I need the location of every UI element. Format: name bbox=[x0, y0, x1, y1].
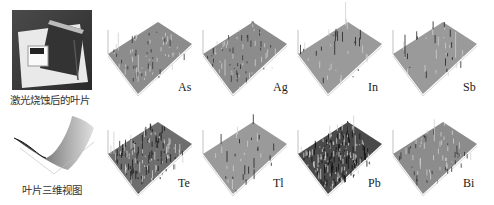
element-label: In bbox=[368, 80, 378, 95]
element-label: Te bbox=[178, 176, 190, 191]
leaf-3d-surface bbox=[10, 108, 95, 178]
element-map-ag: Ag bbox=[195, 0, 290, 100]
element-map-in: In bbox=[290, 0, 385, 100]
leaf-photo-image bbox=[12, 10, 92, 90]
photo-caption: 激光烧蚀后的叶片 bbox=[10, 92, 90, 107]
element-label: Ag bbox=[273, 80, 288, 95]
element-map-sb: Sb bbox=[385, 0, 480, 100]
leaf-photo bbox=[12, 10, 92, 90]
element-map-tl: Tl bbox=[195, 100, 290, 200]
element-map-pb: Pb bbox=[290, 100, 385, 200]
leaf-3d-view bbox=[10, 108, 95, 178]
element-label: Tl bbox=[273, 176, 284, 191]
element-label: Bi bbox=[463, 176, 474, 191]
element-map-bi: Bi bbox=[385, 100, 480, 200]
element-map-te: Te bbox=[100, 100, 195, 200]
render-caption: 叶片三维视图 bbox=[22, 182, 82, 197]
element-label: Sb bbox=[463, 80, 476, 95]
element-label: Pb bbox=[368, 176, 381, 191]
element-map-as: As bbox=[100, 0, 195, 100]
element-label: As bbox=[178, 80, 191, 95]
